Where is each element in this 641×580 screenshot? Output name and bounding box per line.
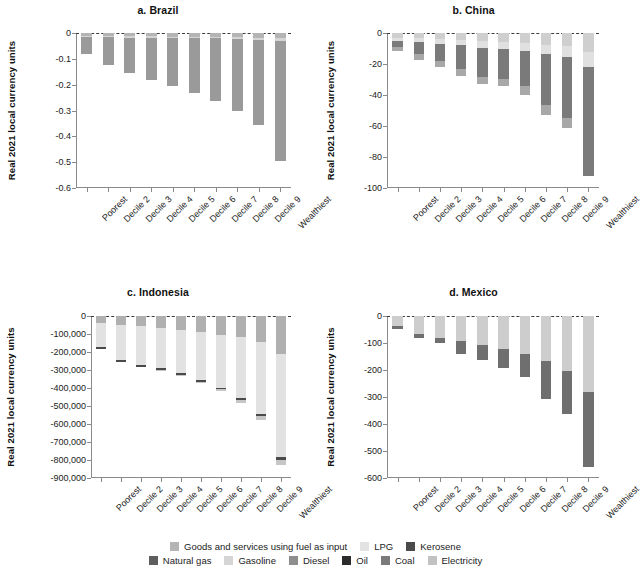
bar-segment [520,33,531,43]
legend-label: Natural gas [163,555,212,566]
bar-brazil-6[interactable] [210,33,221,101]
bar-china-2[interactable] [435,33,446,67]
bar-segment [498,349,509,368]
bar-mexico-5[interactable] [498,316,509,368]
bar-brazil-8[interactable] [253,33,264,125]
bar-indonesia-1[interactable] [116,316,126,362]
bar-mexico-2[interactable] [435,316,446,343]
x-tick-mark [525,478,526,482]
bar-brazil-4[interactable] [167,33,178,86]
bar-segment [103,37,114,65]
legend-label: Coal [395,555,415,566]
x-tick-mark [398,478,399,482]
bar-segment [562,316,573,371]
bar-segment [520,316,531,354]
bar-segment [276,460,286,465]
y-tick-mark [87,442,91,443]
y-tick-label: -500,000 [50,401,91,411]
bar-indonesia-5[interactable] [196,316,206,383]
bar-china-6[interactable] [520,33,531,95]
bar-indonesia-6[interactable] [216,316,226,391]
bar-mexico-3[interactable] [456,316,467,354]
legend-item[interactable]: Electricity [428,555,483,566]
bar-indonesia-7[interactable] [236,316,246,403]
bar-segment [435,316,446,338]
bar-mexico-7[interactable] [541,316,552,399]
bar-china-4[interactable] [477,33,488,84]
legend-swatch-icon [224,556,233,565]
y-axis-label: Real 2021 local currency units [325,316,336,478]
bar-segment [583,67,594,176]
x-tick-mark [130,188,131,192]
y-axis-label: Real 2021 local currency units [6,33,17,188]
bar-mexico-0[interactable] [392,316,403,329]
bar-china-0[interactable] [392,33,403,51]
legend-item[interactable]: Gasoline [224,555,276,566]
bar-segment [253,40,264,125]
legend-item[interactable]: LPG [360,541,393,552]
bar-brazil-0[interactable] [81,33,92,54]
y-tick-mark [72,33,76,34]
bar-mexico-6[interactable] [520,316,531,377]
bar-segment [456,45,467,68]
y-tick-mark [383,343,387,344]
x-tick-mark [241,478,242,482]
legend-item[interactable]: Diesel [289,555,329,566]
bar-indonesia-4[interactable] [176,316,186,375]
bar-segment [583,52,594,68]
bar-brazil-3[interactable] [146,33,157,80]
legend-item[interactable]: Kerosene [406,541,461,552]
bar-mexico-8[interactable] [562,316,573,414]
plot-area-indonesia: 0-100,000-200,000-300,000-400,000-500,00… [91,316,291,478]
bar-mexico-1[interactable] [414,316,425,338]
bar-brazil-7[interactable] [232,33,243,111]
legend-item[interactable]: Goods and services using fuel as input [170,541,347,552]
bar-china-9[interactable] [583,33,594,176]
legend-item[interactable]: Oil [342,555,368,566]
bar-segment [435,44,446,61]
bar-china-5[interactable] [498,33,509,86]
bar-segment [236,400,246,403]
x-tick-mark [525,188,526,192]
x-tick-mark [546,188,547,192]
bar-indonesia-8[interactable] [256,316,266,420]
y-axis-label: Real 2021 local currency units [325,33,336,188]
bar-mexico-9[interactable] [583,316,594,467]
x-tick-mark [419,188,420,192]
bar-indonesia-2[interactable] [136,316,146,367]
legend-label: LPG [374,541,393,552]
bar-brazil-5[interactable] [189,33,200,93]
bar-brazil-2[interactable] [124,33,135,73]
bar-china-8[interactable] [562,33,573,128]
bar-china-3[interactable] [456,33,467,76]
legend-label: Oil [356,555,368,566]
bar-segment [498,316,509,349]
y-tick-mark [383,397,387,398]
bar-segment [176,330,186,373]
legend-swatch-icon [360,542,369,551]
bar-brazil-1[interactable] [103,33,114,65]
bar-segment [456,316,467,341]
x-tick-mark [398,188,399,192]
legend-item[interactable]: Natural gas [149,555,212,566]
bar-indonesia-9[interactable] [276,316,286,465]
x-tick-mark [216,188,217,192]
legend-swatch-icon [170,542,179,551]
bar-segment [498,79,509,86]
legend-item[interactable]: Coal [381,555,415,566]
bar-segment [136,316,146,326]
bar-brazil-9[interactable] [275,33,286,161]
bar-china-7[interactable] [541,33,552,115]
bar-china-1[interactable] [414,33,425,60]
x-tick-mark [87,188,88,192]
bar-indonesia-3[interactable] [156,316,166,370]
bar-segment [583,316,594,392]
legend-label: Goods and services using fuel as input [184,541,347,552]
bar-indonesia-0[interactable] [96,316,106,349]
bar-mexico-4[interactable] [477,316,488,360]
x-tick-mark [151,188,152,192]
x-tick-mark [141,478,142,482]
bar-segment [210,38,221,101]
bar-segment [435,338,446,343]
